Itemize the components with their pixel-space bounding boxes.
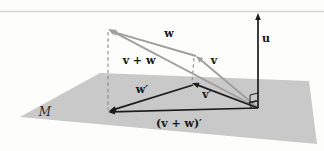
- label-w-prime: w′: [135, 83, 148, 96]
- label-v-prime: v′: [201, 88, 211, 101]
- label-v-plus-w-prime: (v + w)′: [156, 117, 202, 130]
- label-plane-m: M: [38, 105, 52, 119]
- vector-w-arrowhead: [110, 30, 118, 35]
- vector-w-line: [114, 32, 196, 56]
- label-w: w: [163, 27, 174, 40]
- label-u: u: [262, 32, 270, 45]
- vector-projection-figure: v + wwvuv′w′(v + w)′M: [0, 0, 324, 151]
- plane-m: [20, 73, 317, 144]
- label-v: v: [210, 54, 218, 67]
- vector-projection-diagram: v + wwvuv′w′(v + w)′M: [0, 0, 324, 151]
- vector-u-arrowhead: [255, 13, 261, 20]
- label-v-plus-w: v + w: [122, 54, 156, 67]
